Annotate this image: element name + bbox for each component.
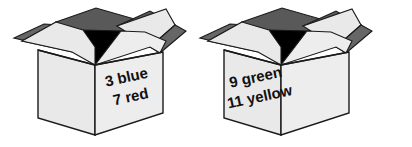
box-right: 9 green 11 yellow bbox=[200, 8, 372, 135]
box-left: 3 blue 7 red bbox=[14, 8, 186, 135]
two-boxes-figure: 3 blue 7 red 9 green 11 bbox=[0, 0, 412, 147]
